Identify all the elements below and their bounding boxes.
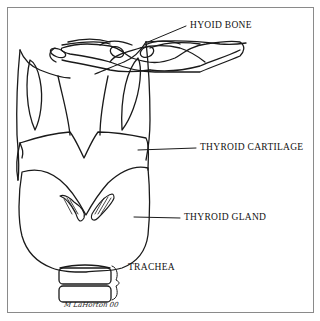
thyroid-cartilage-shape	[17, 132, 149, 180]
gland-leader-line	[134, 217, 180, 218]
label-trachea: TRACHEA	[128, 262, 175, 272]
larynx-outline	[17, 42, 150, 180]
cartilage-leader-line	[138, 148, 196, 150]
label-thyroid-cartilage: THYROID CARTILAGE	[200, 142, 303, 152]
hyoid-leader-line	[148, 26, 186, 42]
thyroid-gland-shape	[19, 167, 150, 272]
larynx-thyroid-illustration	[0, 0, 320, 321]
label-thyroid-gland: THYROID GLAND	[184, 212, 266, 222]
label-hyoid-bone: HYOID BONE	[190, 20, 252, 30]
artist-signature: M LaHorton 00	[63, 301, 119, 309]
leader-lines	[134, 26, 196, 218]
